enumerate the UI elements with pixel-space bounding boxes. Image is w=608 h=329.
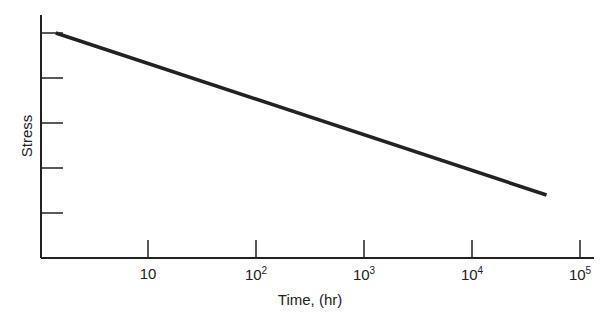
x-tick-label: 102	[245, 265, 267, 283]
x-tick-label: 105	[569, 265, 591, 283]
y-axis-label: Stress	[18, 115, 35, 158]
x-tick-label: 10	[140, 265, 157, 282]
x-axis	[41, 240, 594, 258]
data-line	[56, 33, 547, 195]
x-tick-label: 104	[461, 265, 483, 283]
chart-canvas	[0, 0, 608, 329]
y-axis	[41, 15, 63, 258]
x-tick-label: 103	[353, 265, 375, 283]
x-axis-label: Time, (hr)	[278, 291, 342, 308]
